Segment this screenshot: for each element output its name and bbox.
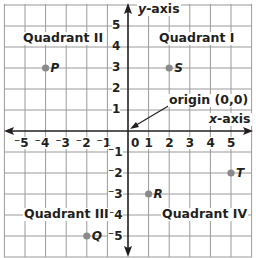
point-t-marker xyxy=(227,169,234,176)
origin-pointer-arrow-icon xyxy=(130,122,139,129)
x-tick-label: ⁻4 xyxy=(35,137,50,149)
x-tick-label: 0 xyxy=(131,137,139,149)
x-tick-label: ⁻3 xyxy=(55,137,70,149)
point-q-marker xyxy=(83,232,90,239)
x-axis-suffix: -axis xyxy=(217,111,250,126)
point-p-marker xyxy=(42,64,49,71)
origin-label: origin (0,0) xyxy=(168,94,249,107)
origin-pointer-line xyxy=(133,105,170,127)
y-tick-label: ⁻3 xyxy=(108,188,123,200)
y-tick-label: ⁻1 xyxy=(108,146,123,158)
point-r-marker xyxy=(145,190,152,197)
y-tick-label: ⁻5 xyxy=(108,230,123,242)
y-tick-label: ⁻2 xyxy=(108,167,123,179)
x-tick-label: 2 xyxy=(165,137,173,149)
quadrant-2-label: Quadrant II xyxy=(22,32,104,45)
x-tick-label: ⁻2 xyxy=(76,137,91,149)
point-t-label: T xyxy=(236,167,244,179)
x-tick-label: 3 xyxy=(186,137,194,149)
point-s-label: S xyxy=(174,62,183,74)
y-tick-label: 2 xyxy=(112,82,120,94)
y-axis-label: y-axis xyxy=(137,3,181,16)
x-tick-label: 4 xyxy=(206,137,214,149)
x-axis-label: x-axis xyxy=(208,113,252,126)
point-q-label: Q xyxy=(92,230,102,242)
x-tick-label: ⁻5 xyxy=(14,137,29,149)
point-s-marker xyxy=(166,64,173,71)
y-tick-label: 4 xyxy=(112,40,120,52)
x-axis-var: x xyxy=(209,111,217,126)
y-axis-var: y xyxy=(138,1,146,16)
y-tick-label: 3 xyxy=(112,61,120,73)
quadrant-1-label: Quadrant I xyxy=(158,32,235,45)
y-tick-label: 5 xyxy=(112,19,120,31)
x-tick-label: 1 xyxy=(145,137,153,149)
y-tick-label: ⁻4 xyxy=(108,209,123,221)
quadrant-4-label: Quadrant IV xyxy=(161,208,248,221)
y-axis-suffix: -axis xyxy=(146,1,179,16)
x-tick-label: 5 xyxy=(227,137,235,149)
y-tick-label: 1 xyxy=(112,103,120,115)
quadrant-3-label: Quadrant III xyxy=(23,208,110,221)
point-r-label: R xyxy=(154,188,163,200)
point-p-label: P xyxy=(51,62,60,74)
